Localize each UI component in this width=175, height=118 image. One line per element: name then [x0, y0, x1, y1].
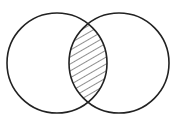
venn-diagram — [0, 0, 175, 118]
